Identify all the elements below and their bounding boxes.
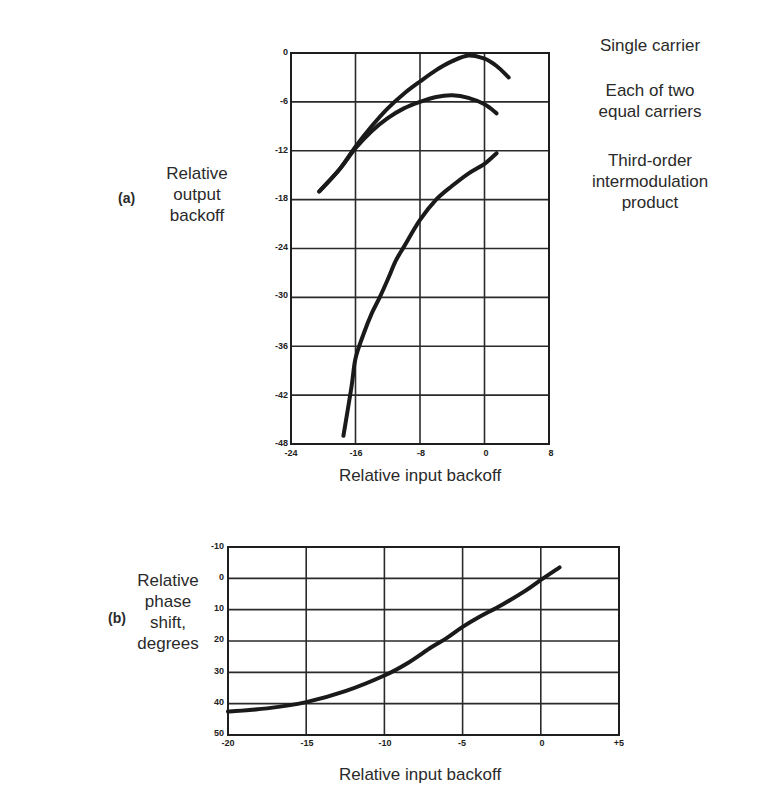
plot-canvas [0, 0, 763, 811]
chart-a [291, 53, 549, 444]
chart-b [228, 547, 619, 735]
series-line [319, 95, 496, 191]
series-line [319, 55, 508, 191]
series-line [228, 567, 560, 711]
